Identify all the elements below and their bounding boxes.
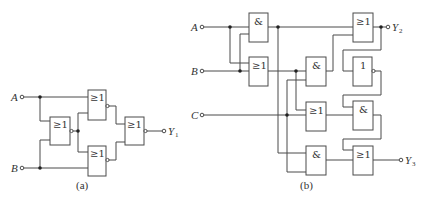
gate-symbol: ≥1 — [90, 92, 105, 103]
wire — [40, 97, 50, 121]
inversion-bubble — [372, 69, 375, 72]
junction-dot — [294, 69, 298, 73]
logic-circuit-figure: A B ≥1 ≥1 ≥1 ≥1 Y 1 (a) — [0, 0, 424, 199]
wire — [108, 142, 125, 160]
wire — [40, 140, 50, 168]
circuit-b: A B C & ≥1 & ≥1 & ≥1 1 & ≥1 Y 2 Y 3 (b) — [190, 13, 416, 192]
output-terminal-y1 — [162, 129, 166, 133]
output-label-y2-sub: 2 — [399, 27, 403, 35]
input-terminal-b — [20, 166, 24, 170]
junction-dot — [285, 113, 289, 117]
gate-symbol: ≥1 — [309, 105, 324, 116]
gate-symbol: ≥1 — [356, 16, 371, 27]
junction-dot — [228, 25, 232, 29]
gate-symbol: 1 — [360, 60, 366, 71]
wire — [73, 113, 88, 152]
input-label-a: A — [190, 21, 198, 33]
junction-dot — [76, 129, 80, 133]
input-label-c: C — [191, 109, 199, 121]
gate-symbol: & — [254, 16, 263, 27]
gate-symbol: & — [312, 60, 321, 71]
circuit-a: A B ≥1 ≥1 ≥1 ≥1 Y 1 (a) — [10, 90, 179, 192]
gate-symbol: & — [359, 104, 368, 115]
inversion-bubble — [70, 129, 73, 132]
gate-symbol: & — [312, 149, 321, 160]
gate-symbol: ≥1 — [252, 60, 267, 71]
input-terminal-c — [200, 113, 204, 117]
input-label-b: B — [191, 65, 198, 77]
gate-symbol: ≥1 — [90, 148, 105, 159]
output-label-y3-sub: 3 — [412, 160, 416, 168]
output-label-y1-sub: 1 — [175, 131, 179, 139]
junction-dot — [379, 25, 383, 29]
wire — [326, 35, 353, 71]
gate-symbol: ≥1 — [127, 119, 142, 130]
output-terminal-y3 — [399, 158, 403, 162]
wire — [296, 71, 306, 110]
junction-dot — [238, 69, 242, 73]
wire — [108, 106, 125, 124]
caption-b: (b) — [300, 179, 313, 192]
inversion-bubble — [106, 104, 109, 107]
output-terminal-y2 — [386, 25, 390, 29]
gate-symbol: ≥1 — [356, 149, 371, 160]
junction-dot — [276, 25, 280, 29]
inversion-bubble — [106, 158, 109, 161]
input-label-a: A — [10, 91, 18, 103]
junction-dot — [38, 95, 42, 99]
junction-dot — [38, 166, 42, 170]
input-terminal-b — [200, 69, 204, 73]
input-terminal-a — [200, 25, 204, 29]
wire — [240, 34, 249, 71]
gate-symbol: ≥1 — [53, 119, 68, 130]
input-label-b: B — [11, 162, 18, 174]
caption-a: (a) — [76, 179, 89, 192]
inversion-bubble — [144, 129, 147, 132]
input-terminal-a — [20, 95, 24, 99]
